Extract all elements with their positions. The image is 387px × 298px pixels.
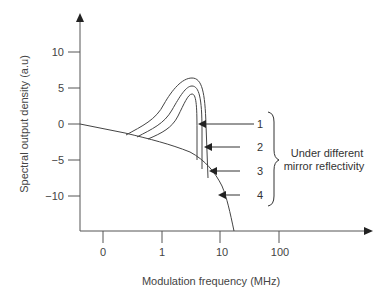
curve-label-2: 2 [257,141,263,153]
curly-brace [268,112,279,206]
x-tick-label: 10 [216,246,228,258]
y-tick-label: 0 [58,118,64,130]
y-ticks: 10 5 0 −5 −10 [45,46,80,202]
y-tick-label: −10 [45,190,64,202]
curve-label-4: 4 [257,189,263,201]
curve-label-1: 1 [257,118,263,130]
x-tick-label: 1 [159,246,165,258]
x-axis-title: Modulation frequency (MHz) [142,275,280,287]
curve-label-3: 3 [257,165,263,177]
x-tick-label: 0 [100,246,106,258]
curve-1 [126,78,208,178]
y-axis-title: Spectral output density (a.u) [18,55,30,193]
annotation-arrows [198,120,240,199]
x-ticks: 0 1 10 100 [100,231,289,258]
chart: 10 5 0 −5 −10 0 1 10 100 Modulation freq… [0,0,387,298]
brace-text-line-2: mirror reflectivity [284,160,365,172]
y-axis [76,13,84,231]
brace-text-line-1: Under different [291,147,364,159]
y-tick-label: 10 [52,46,64,58]
y-tick-label: −5 [51,154,64,166]
curve-4-baseline [80,124,234,231]
x-axis [80,227,373,235]
x-tick-label: 100 [271,246,289,258]
y-tick-label: 5 [58,82,64,94]
